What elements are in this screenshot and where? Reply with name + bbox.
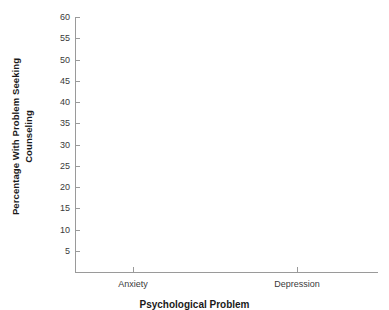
y-axis-tick-label: 30 xyxy=(48,141,70,150)
y-axis-tick xyxy=(76,230,80,231)
y-axis-tick xyxy=(76,166,80,167)
y-axis-tick xyxy=(76,60,80,61)
y-axis-tick xyxy=(76,38,80,39)
x-axis-tick xyxy=(133,267,134,272)
y-axis-tick xyxy=(76,145,80,146)
y-axis-tick-label: 45 xyxy=(48,77,70,86)
y-axis-tick-label: 40 xyxy=(48,98,70,107)
x-axis-tick-label: Depression xyxy=(274,279,320,290)
y-axis-tick-label: 25 xyxy=(48,162,70,171)
y-axis-tick-labels: 51015202530354045505560 xyxy=(48,0,70,310)
y-axis-tick-label: 5 xyxy=(48,247,70,256)
y-axis-tick xyxy=(76,17,80,18)
y-axis-title-line-2: Counseling xyxy=(23,57,36,214)
x-axis-tick xyxy=(297,267,298,272)
y-axis-tick-label: 35 xyxy=(48,119,70,128)
y-axis-tick xyxy=(76,187,80,188)
plot-area xyxy=(76,17,378,272)
y-axis-tick xyxy=(76,102,80,103)
y-axis-tick-label: 10 xyxy=(48,226,70,235)
x-axis-title-text: Psychological Problem xyxy=(0,300,389,310)
y-axis-tick xyxy=(76,81,80,82)
y-axis-title: Percentage With Problem Seeking Counseli… xyxy=(0,0,46,272)
y-axis-tick-label: 60 xyxy=(48,13,70,22)
x-axis-title: Psychological Problem xyxy=(0,300,389,310)
x-axis-tick-label: Anxiety xyxy=(118,279,148,290)
y-axis-tick-label: 55 xyxy=(48,34,70,43)
x-axis-line xyxy=(75,272,378,273)
chart-container: Percentage With Problem Seeking Counseli… xyxy=(0,0,389,310)
y-axis-tick xyxy=(76,251,80,252)
y-axis-tick-label: 15 xyxy=(48,204,70,213)
y-axis-tick-label: 50 xyxy=(48,56,70,65)
y-axis-tick-label: 20 xyxy=(48,183,70,192)
y-axis-title-line-1: Percentage With Problem Seeking xyxy=(11,57,22,214)
y-axis-tick xyxy=(76,208,80,209)
y-axis-tick xyxy=(76,123,80,124)
